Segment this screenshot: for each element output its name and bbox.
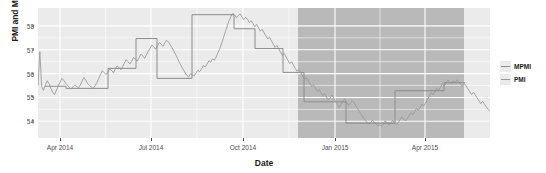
y-tick-mark <box>32 25 35 26</box>
x-tick-label: Oct 2014 <box>230 144 256 151</box>
legend: MPMIPMI <box>500 60 546 86</box>
x-tick-mark <box>60 138 61 141</box>
x-tick-label: Apr 2015 <box>412 144 438 151</box>
plot-svg <box>38 8 490 138</box>
shaded-forecast-region <box>298 8 464 138</box>
legend-label: PMI <box>514 76 526 83</box>
y-tick-label: 55 <box>6 94 34 101</box>
x-tick-mark <box>243 138 244 141</box>
y-tick-mark <box>32 49 35 50</box>
x-tick-label: Apr 2014 <box>47 144 73 151</box>
legend-key-icon <box>500 61 511 72</box>
legend-label: MPMI <box>514 63 531 70</box>
x-tick-label: Jan 2015 <box>322 144 349 151</box>
plot-panel <box>38 8 490 138</box>
legend-item[interactable]: MPMI <box>500 60 546 73</box>
y-tick-mark <box>32 97 35 98</box>
legend-color-swatch <box>501 66 510 67</box>
x-tick-mark <box>335 138 336 141</box>
y-tick-mark <box>32 121 35 122</box>
x-tick-mark <box>425 138 426 141</box>
x-tick-label: Jul 2014 <box>139 144 164 151</box>
y-tick-mark <box>32 73 35 74</box>
legend-color-swatch <box>501 79 510 80</box>
legend-key-icon <box>500 74 511 85</box>
y-tick-label: 56 <box>6 70 34 77</box>
y-tick-label: 54 <box>6 118 34 125</box>
chart-container: PMI and MPMI 5455565758 Apr 2014Jul 2014… <box>0 0 546 173</box>
x-tick-mark <box>151 138 152 141</box>
y-tick-label: 58 <box>6 22 34 29</box>
x-axis-title: Date <box>38 158 490 168</box>
y-axis-tick-group: 5455565758 <box>0 0 34 173</box>
y-tick-label: 57 <box>6 46 34 53</box>
legend-item[interactable]: PMI <box>500 73 546 86</box>
